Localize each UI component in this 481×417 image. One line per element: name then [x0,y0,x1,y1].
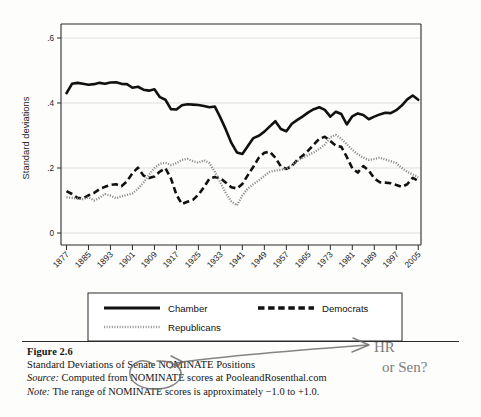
figure-source-line: Source: Computed from NOMINATE scores at… [27,371,457,384]
chart-figure: 0.2.4.6 18771885189319011909191719251933… [0,0,481,345]
data-series-group [67,82,419,205]
figure-page: 0.2.4.6 18771885189319011909191719251933… [0,0,481,417]
line-chart: 0.2.4.6 18771885189319011909191719251933… [0,0,481,345]
x-tick-label: 1997 [380,249,400,269]
y-tick-label: .2 [47,164,54,173]
x-tick-label: 1917 [161,249,181,269]
y-tick-label: .6 [47,34,54,43]
legend-label-chamber: Chamber [168,303,208,314]
x-tick-label: 1949 [249,249,269,269]
figure-note-line: Note: The range of NOMINATE scores is ap… [27,385,457,398]
legend-label-democrats: Democrats [322,303,369,314]
x-tick-label: 1981 [336,249,356,269]
series-line-democrats [67,137,419,204]
x-tick-label: 1941 [227,249,247,269]
x-tick-label: 1933 [205,249,225,269]
legend-border [88,293,402,341]
y-tick-label: .4 [47,99,54,108]
y-axis-title: Standard deviations [20,96,31,179]
y-axis-ticks: 0.2.4.6 [47,34,61,238]
series-line-republicans [67,135,419,206]
x-tick-label: 1885 [73,249,93,269]
note-text: The range of NOMINATE scores is approxim… [53,386,320,397]
gridlines [61,38,421,233]
source-text: Computed from NOMINATE scores at Poolean… [62,372,327,383]
caption-divider [22,341,459,342]
x-tick-label: 1925 [183,249,203,269]
x-tick-label: 1877 [51,249,71,269]
note-label: Note: [27,386,50,397]
x-axis-ticks: 1877188518931901190919171925193319411949… [51,245,423,270]
y-tick-label: 0 [49,229,54,238]
plot-frame [61,24,421,245]
x-tick-label: 1909 [139,249,159,269]
x-tick-label: 1901 [117,249,137,269]
x-tick-label: 1965 [292,249,312,269]
figure-title: Standard Deviations of Senate NOMINATE P… [27,358,457,371]
x-tick-label: 2005 [402,249,422,269]
figure-caption: Figure 2.6 Standard Deviations of Senate… [27,345,457,398]
figure-number: Figure 2.6 [27,345,457,358]
series-line-chamber [67,82,419,154]
x-tick-label: 1989 [358,249,378,269]
source-label: Source: [27,372,59,383]
x-tick-label: 1973 [314,249,334,269]
chart-legend: ChamberDemocratsRepublicans [88,293,402,341]
x-tick-label: 1893 [95,249,115,269]
legend-label-republicans: Republicans [168,322,221,333]
x-tick-label: 1957 [271,249,291,269]
